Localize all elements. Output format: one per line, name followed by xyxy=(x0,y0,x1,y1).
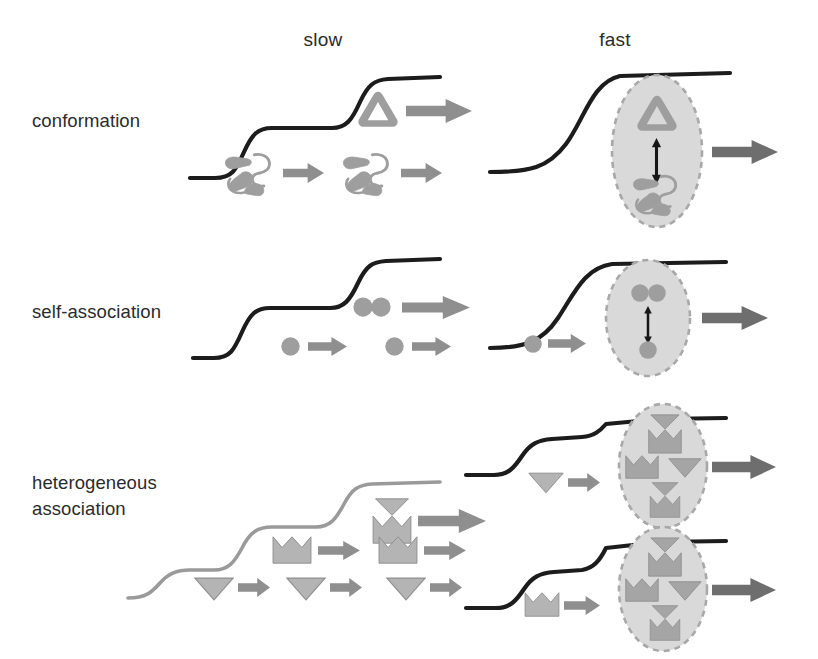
heterogeneous-lower-ensemble xyxy=(619,527,707,651)
monomer-circle-icon xyxy=(631,284,649,302)
self-association-slow-monomer-state-2 xyxy=(385,337,451,356)
column-header-slow: slow xyxy=(268,29,378,51)
conformation-fast-panel xyxy=(490,73,778,227)
heterogeneous-slow-ligand-state-2 xyxy=(287,578,362,600)
row-label-self-association: self-association xyxy=(32,299,161,325)
ligand-triangle-icon xyxy=(287,578,325,600)
ligand-triangle-icon xyxy=(529,473,563,493)
flow-arrow-icon xyxy=(402,296,470,319)
flow-arrow-icon xyxy=(283,163,324,183)
diagram-canvas xyxy=(0,0,818,659)
ligand-triangle-icon xyxy=(387,578,425,600)
heterogeneous-slow-ligand-state-1 xyxy=(195,578,270,600)
heterogeneous-slow-partner-state-1 xyxy=(273,537,360,563)
conformation-slow-folded-state xyxy=(358,92,472,127)
conformation-slow-unfolded-state-1 xyxy=(225,154,324,195)
flow-arrow-icon xyxy=(406,99,472,123)
flow-arrow-icon xyxy=(712,578,776,602)
self-association-ensemble xyxy=(606,260,690,376)
flow-arrow-icon xyxy=(418,509,486,533)
monomer-circle-icon xyxy=(639,341,657,359)
flow-arrow-icon xyxy=(412,337,451,356)
flow-arrow-icon xyxy=(330,578,362,597)
partner-bowtie-icon xyxy=(273,537,311,563)
conformation-ensemble xyxy=(612,75,702,227)
monomer-circle-icon xyxy=(353,297,372,316)
monomer-circle-icon xyxy=(648,284,666,302)
heterogeneous-slow-ligand-state-3 xyxy=(387,578,462,600)
heterogeneous-fast-panel-lower xyxy=(466,527,776,651)
monomer-circle-icon xyxy=(524,335,542,353)
figure-root: slow fast conformation self-association … xyxy=(0,0,818,659)
monomer-circle-icon xyxy=(385,337,403,355)
heterogeneous-slow-complex-state xyxy=(373,499,486,543)
monomer-circle-icon xyxy=(281,337,299,355)
flow-arrow-icon xyxy=(548,334,586,353)
heterogeneous-fast-lower-input xyxy=(525,593,600,617)
self-association-slow-dimer-state xyxy=(353,296,470,319)
flow-arrow-icon xyxy=(702,306,768,330)
flow-arrow-icon xyxy=(430,578,462,597)
row-label-conformation: conformation xyxy=(32,108,140,134)
row-label-heterogeneous-association: heterogeneous association xyxy=(32,470,157,523)
self-association-fast-input xyxy=(524,334,586,353)
heterogeneous-slow-panel xyxy=(128,482,486,600)
self-association-slow-monomer-state-1 xyxy=(281,337,347,356)
ligand-triangle-icon xyxy=(195,578,233,600)
heterogeneous-fast-upper-input xyxy=(529,473,600,493)
row-conformation xyxy=(190,73,778,227)
flow-arrow-icon xyxy=(424,541,466,560)
self-association-fast-panel xyxy=(490,260,768,376)
flow-arrow-icon xyxy=(712,455,776,479)
conformation-slow-panel xyxy=(190,77,472,196)
flow-arrow-icon xyxy=(308,337,347,356)
row-heterogeneous-association xyxy=(128,404,776,651)
flow-arrow-icon xyxy=(712,140,778,164)
flow-arrow-icon xyxy=(564,596,600,615)
heterogeneous-fast-panel-upper xyxy=(466,404,776,528)
flow-arrow-icon xyxy=(318,541,360,560)
row-self-association xyxy=(193,259,768,376)
flow-arrow-icon xyxy=(568,473,600,492)
monomer-circle-icon xyxy=(371,297,390,316)
partner-bowtie-icon xyxy=(525,593,559,617)
flow-arrow-icon xyxy=(238,578,270,597)
heterogeneous-upper-ensemble xyxy=(619,404,707,528)
conformation-slow-unfolded-state-2 xyxy=(343,154,442,195)
flow-arrow-icon xyxy=(401,163,442,183)
column-header-fast: fast xyxy=(560,29,670,51)
unfolded-protein-coil-icon xyxy=(343,154,387,195)
self-association-slow-panel xyxy=(193,259,470,358)
